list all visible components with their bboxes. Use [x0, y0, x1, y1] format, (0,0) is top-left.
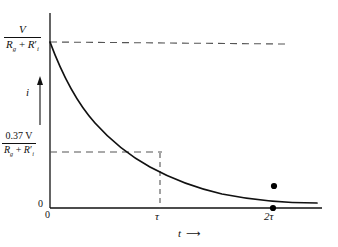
decay-curve: [50, 42, 317, 203]
x-axis-arrow-icon: ⟶: [186, 229, 198, 240]
y-label-initial-r1-sub: g: [13, 45, 16, 52]
y-axis-symbol: i: [26, 87, 29, 99]
x-tick-label-2tau: 2τ: [264, 211, 273, 223]
y-label-initial-value: V Rg + R′i: [4, 24, 41, 52]
figure-exponential-decay: V Rg + R′i 0.37 V Rg + R′i i 0 0 τ 2τ t⟶: [0, 0, 338, 247]
i-axis-arrow-icon: [37, 76, 43, 125]
y-label-037-r1-sub: g: [10, 150, 13, 157]
x-axis-symbol: t: [178, 227, 181, 239]
y-label-037-r2-sub: i: [32, 150, 34, 157]
y-label-initial-r2-sub: i: [37, 45, 39, 52]
x-axis-caption: t⟶: [178, 228, 198, 240]
x-axis-origin-tick-label: 0: [45, 210, 50, 221]
y-label-037-numerator: 0.37 V: [2, 131, 36, 142]
y-label-initial-numerator: V: [4, 24, 41, 36]
y-label-037-value: 0.37 V Rg + R′i: [2, 131, 36, 157]
x-tick-label-tau: τ: [155, 211, 159, 223]
marker-curve-2tau: [271, 183, 277, 189]
y-label-initial-r2: R: [28, 38, 35, 50]
y-label-037-plus: +: [16, 144, 22, 155]
dashed-line-initial-value: [50, 42, 286, 44]
y-label-initial-r1: R: [6, 38, 13, 50]
y-label-initial-plus: +: [19, 38, 25, 50]
plot-svg: [0, 0, 338, 247]
y-axis-origin-tick-label: 0: [38, 199, 43, 210]
